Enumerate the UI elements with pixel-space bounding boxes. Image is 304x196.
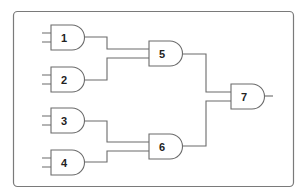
gate-label-2: 2 <box>61 74 67 86</box>
wire-4-to-6 <box>84 151 149 162</box>
and-gate-1-icon <box>51 25 85 50</box>
wire-5-to-7 <box>182 54 231 92</box>
gate-label-1: 1 <box>61 32 67 44</box>
and-gate-5-icon <box>149 41 182 66</box>
wire-6-to-7 <box>182 101 231 146</box>
and-gate-7-icon <box>231 84 265 109</box>
and-gate-6-icon <box>149 134 183 159</box>
logic-diagram: 1 2 3 4 5 6 7 <box>0 0 304 196</box>
wire-2-to-5 <box>84 58 149 80</box>
and-gate-3-icon <box>51 108 85 133</box>
circuit-svg: 1 2 3 4 5 6 7 <box>0 0 304 196</box>
gate-1-inputs <box>42 33 51 42</box>
gate-3-inputs <box>42 116 51 125</box>
gate-label-7: 7 <box>241 91 247 103</box>
wire-3-to-6 <box>84 121 149 142</box>
and-gate-2-icon <box>51 67 85 92</box>
gate-2-inputs <box>42 75 51 84</box>
gate-label-5: 5 <box>159 48 165 60</box>
gate-label-6: 6 <box>159 141 165 153</box>
gate-4-inputs <box>42 158 51 167</box>
gate-label-4: 4 <box>61 157 68 169</box>
and-gate-4-icon <box>51 150 85 175</box>
gate-label-3: 3 <box>61 115 67 127</box>
wire-1-to-5 <box>84 37 149 49</box>
